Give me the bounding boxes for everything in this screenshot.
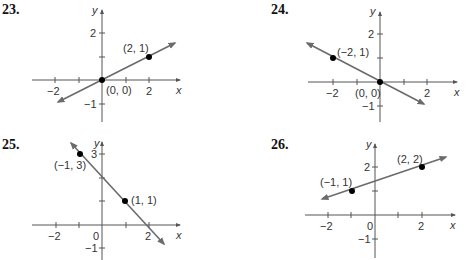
x-tick-label: 2	[424, 87, 430, 99]
point-label: (−1, 3)	[54, 159, 86, 171]
data-point	[146, 54, 152, 60]
point-label: (0, 0)	[106, 84, 132, 96]
point-label: (0, 0)	[355, 87, 381, 99]
graph-26: −2 0 2 2 −1 x y (−1, 1) (2, 2)	[305, 138, 456, 258]
y-axis-label: y	[369, 5, 377, 17]
x-tick-label: 2	[418, 220, 424, 232]
point-label: (1, 1)	[131, 194, 157, 206]
data-point	[99, 77, 105, 83]
x-axis-label: x	[453, 86, 460, 98]
graph-25: −2 0 2 3 −1 x y (−1, 3) (1, 1)	[32, 137, 182, 260]
x-tick-label: −2	[48, 230, 61, 242]
x-tick-label: 2	[146, 85, 152, 97]
y-tick-label: −1	[85, 242, 98, 254]
graph-24: −2 2 2 −1 x y (−2, 1) (0, 0)	[307, 5, 460, 122]
point-label: (−2, 1)	[337, 46, 369, 58]
x-tick-label: 2	[145, 230, 151, 242]
y-tick-label: 2	[368, 28, 374, 40]
y-tick-label: 2	[90, 27, 96, 39]
y-tick-label: −1	[358, 233, 371, 245]
data-point	[349, 188, 355, 194]
y-axis-label: y	[93, 137, 101, 149]
y-axis-label: y	[365, 138, 373, 150]
data-point	[122, 198, 128, 204]
x-tick-label: 0	[367, 220, 373, 232]
x-axis-label: x	[175, 84, 182, 96]
data-point	[77, 151, 83, 157]
y-tick-label: 3	[91, 148, 97, 160]
y-tick-label: −1	[362, 100, 375, 112]
graph-23: −2 2 2 −1 x y (0, 0) (2, 1)	[32, 4, 182, 122]
point-label: (−1, 1)	[320, 176, 352, 188]
data-point	[330, 55, 336, 61]
x-tick-label: −2	[47, 85, 60, 97]
y-tick-label: 2	[364, 161, 370, 173]
graph-canvas: −2 2 2 −1 x y (0, 0) (2, 1) −2 2 2 −1 x …	[0, 0, 471, 260]
y-tick-label: −1	[84, 98, 97, 110]
x-axis-label: x	[449, 219, 456, 231]
x-tick-label: −2	[326, 87, 339, 99]
x-tick-label: −2	[320, 220, 333, 232]
x-tick-label: 0	[93, 230, 99, 242]
point-label: (2, 1)	[123, 42, 149, 54]
data-point	[377, 79, 383, 85]
x-axis-label: x	[175, 229, 182, 241]
point-label: (2, 2)	[397, 153, 423, 165]
y-axis-label: y	[91, 4, 99, 16]
